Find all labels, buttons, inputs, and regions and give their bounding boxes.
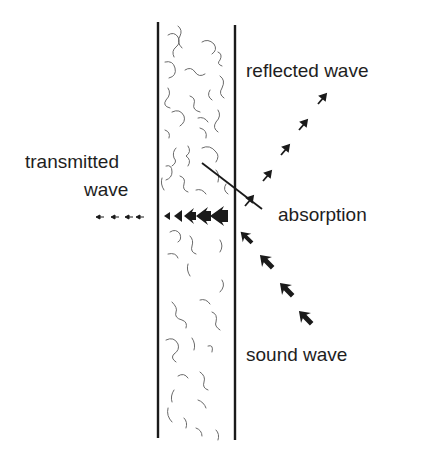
sound-wave-label: sound wave <box>246 344 347 366</box>
transmitted-wave-arrows <box>96 215 144 219</box>
absorption-pointer-line <box>202 163 262 209</box>
transmitted-wave-label-line1: transmitted <box>25 151 119 173</box>
reflected-wave-arrows <box>245 94 326 206</box>
reflected-wave-label: reflected wave <box>246 60 369 82</box>
attenuating-wave-arrows <box>164 206 228 226</box>
incident-sound-wave-arrows <box>236 227 316 328</box>
absorbent-material-fibers <box>161 26 228 440</box>
absorption-label: absorption <box>278 204 367 226</box>
transmitted-wave-label-line2: wave <box>84 179 128 201</box>
